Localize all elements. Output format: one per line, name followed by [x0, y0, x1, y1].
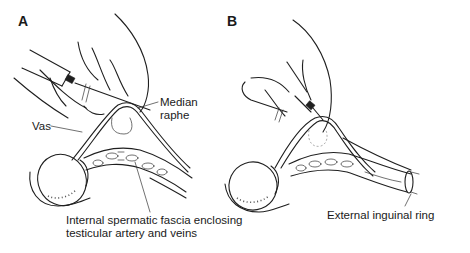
label-vas: Vas: [32, 120, 51, 133]
external-ring-leader: [405, 194, 411, 206]
label-fascia-line2: testicular artery and veins: [66, 227, 197, 240]
panel-b: B External inguinal ring: [215, 0, 470, 253]
panel-a: A Median raphe Vas Internal spermatic fa…: [0, 0, 235, 253]
median-raphe-leader: [138, 102, 158, 108]
panel-letter-a: A: [18, 14, 28, 28]
label-median-raphe-line1: Median: [160, 96, 198, 109]
hand: [242, 20, 331, 132]
vas-leader: [51, 126, 82, 132]
spermatic-cord: [289, 152, 411, 192]
testis: [29, 146, 94, 213]
fascia-leader: [135, 162, 150, 212]
label-median-raphe-line2: raphe: [160, 109, 189, 122]
panel-letter-b: B: [227, 14, 237, 28]
external-inguinal-ring: [405, 171, 419, 194]
label-external-inguinal-ring: External inguinal ring: [327, 209, 434, 222]
testis: [222, 155, 289, 217]
scrotal-fold: [275, 116, 411, 176]
